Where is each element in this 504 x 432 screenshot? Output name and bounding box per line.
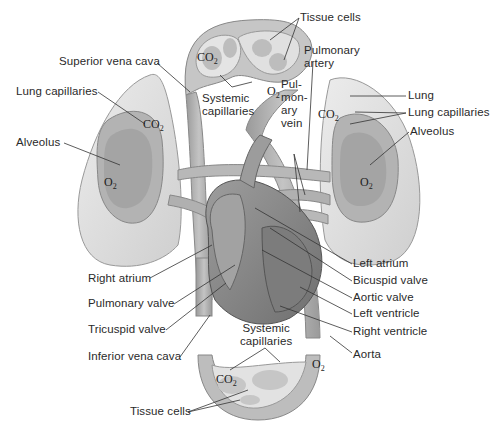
label-pulmonary-artery: Pulmonary artery (304, 44, 360, 70)
circulatory-diagram: Tissue cells Superior vena cava Systemic… (0, 0, 504, 432)
label-alveolus-left: Alveolus (16, 136, 60, 149)
o2-bottom: O2 (312, 357, 325, 373)
o2-right-lung: O2 (360, 175, 373, 191)
label-lung: Lung (408, 89, 434, 102)
label-alveolus-right: Alveolus (410, 125, 454, 138)
label-aortic-valve: Aortic valve (353, 291, 414, 304)
co2-top: CO2 (197, 50, 218, 66)
left-lung (78, 74, 181, 266)
right-lung (320, 78, 420, 265)
label-left-ventricle: Left ventricle (353, 307, 420, 320)
label-right-ventricle: Right ventricle (353, 325, 427, 338)
label-aorta: Aorta (353, 348, 381, 361)
label-systemic-capillaries-top: Systemic capillaries (202, 92, 254, 118)
o2-left-lung: O2 (104, 175, 117, 191)
label-tissue-cells-bottom: Tissue cells (130, 405, 191, 418)
co2-left-lung: CO2 (143, 117, 164, 133)
label-tissue-cells-top: Tissue cells (300, 11, 361, 24)
co2-right-lung: CO2 (318, 107, 339, 123)
label-bicuspid-valve: Bicuspid valve (353, 274, 428, 287)
o2-top: O2 (267, 84, 280, 100)
label-lung-capillaries-right: Lung capillaries (408, 106, 490, 119)
label-superior-vena-cava: Superior vena cava (59, 55, 160, 68)
label-tricuspid-valve: Tricuspid valve (88, 323, 166, 336)
label-lung-capillaries-left: Lung capillaries (16, 85, 98, 98)
label-pulmonary-valve: Pulmonary valve (88, 297, 175, 310)
heart (206, 135, 322, 324)
label-systemic-capillaries-bottom: Systemic capillaries (240, 322, 292, 348)
label-pulmonary-vein: Pul- mon- ary vein (281, 78, 308, 130)
co2-bottom: CO2 (216, 372, 237, 388)
label-left-atrium: Left atrium (353, 257, 408, 270)
label-inferior-vena-cava: Inferior vena cava (88, 350, 181, 363)
label-right-atrium: Right atrium (88, 272, 151, 285)
